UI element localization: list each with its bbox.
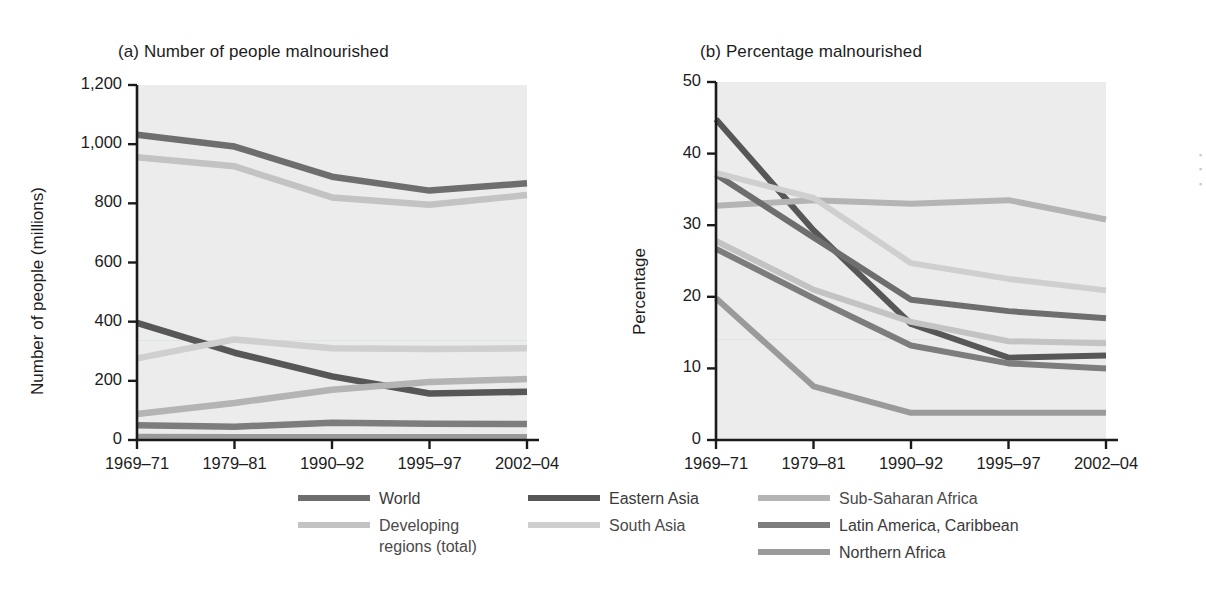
legend-item-label: Developing regions (total)	[379, 515, 477, 557]
legend-color-swatch	[528, 522, 600, 528]
chart-panel-a: (a) Number of people malnourished Number…	[0, 0, 620, 480]
y-tick-label: 600	[58, 252, 122, 271]
legend-column-2: Eastern AsiaSouth Asia	[528, 488, 758, 542]
page-edge-artifact: ▪▪▪	[1199, 148, 1202, 191]
legend-color-swatch	[758, 522, 830, 528]
legend-column-1: WorldDeveloping regions (total)	[298, 488, 528, 563]
y-tick-label: 0	[58, 429, 122, 448]
legend-item[interactable]: Developing regions (total)	[298, 515, 528, 557]
legend-item[interactable]: Sub-Saharan Africa	[758, 488, 1078, 509]
legend-color-swatch	[298, 495, 370, 501]
x-tick-label: 1979–81	[185, 454, 285, 473]
chart-legend: WorldDeveloping regions (total) Eastern …	[0, 488, 1206, 608]
x-tick-label: 1969–71	[87, 454, 187, 473]
x-tick-label: 2002–04	[1056, 454, 1156, 473]
y-tick-label: 400	[58, 311, 122, 330]
legend-color-swatch	[298, 522, 370, 528]
y-tick-label: 50	[637, 71, 701, 90]
y-tick-label: 800	[58, 192, 122, 211]
legend-item-label: Northern Africa	[839, 542, 946, 563]
figure-container: (a) Number of people malnourished Number…	[0, 0, 1206, 612]
x-tick-label: 1995–97	[380, 454, 480, 473]
legend-item[interactable]: Eastern Asia	[528, 488, 758, 509]
y-tick-label: 20	[637, 286, 701, 305]
legend-color-swatch	[758, 495, 830, 501]
legend-item[interactable]: Latin America, Caribbean	[758, 515, 1078, 536]
legend-item[interactable]: South Asia	[528, 515, 758, 536]
legend-item[interactable]: Northern Africa	[758, 542, 1078, 563]
y-tick-label: 1,000	[58, 133, 122, 152]
x-tick-label: 1979–81	[764, 454, 864, 473]
y-tick-label: 1,200	[58, 74, 122, 93]
y-tick-label: 10	[637, 357, 701, 376]
legend-color-swatch	[758, 549, 830, 555]
x-tick-label: 1990–92	[861, 454, 961, 473]
legend-color-swatch	[528, 495, 600, 501]
x-tick-label: 2002–04	[477, 454, 577, 473]
legend-item-label: Sub-Saharan Africa	[839, 488, 978, 509]
panel-a-plot	[0, 0, 620, 480]
y-tick-label: 30	[637, 214, 701, 233]
legend-item-label: World	[379, 488, 421, 509]
legend-item[interactable]: World	[298, 488, 528, 509]
y-tick-label: 0	[637, 429, 701, 448]
x-tick-label: 1990–92	[282, 454, 382, 473]
legend-column-3: Sub-Saharan AfricaLatin America, Caribbe…	[758, 488, 1078, 569]
y-tick-label: 40	[637, 143, 701, 162]
legend-item-label: Eastern Asia	[609, 488, 699, 509]
y-tick-label: 200	[58, 370, 122, 389]
legend-item-label: South Asia	[609, 515, 686, 536]
legend-item-label: Latin America, Caribbean	[839, 515, 1019, 536]
x-tick-label: 1969–71	[666, 454, 766, 473]
chart-panel-b: (b) Percentage malnourished Percentage 5…	[600, 0, 1206, 480]
x-tick-label: 1995–97	[959, 454, 1059, 473]
